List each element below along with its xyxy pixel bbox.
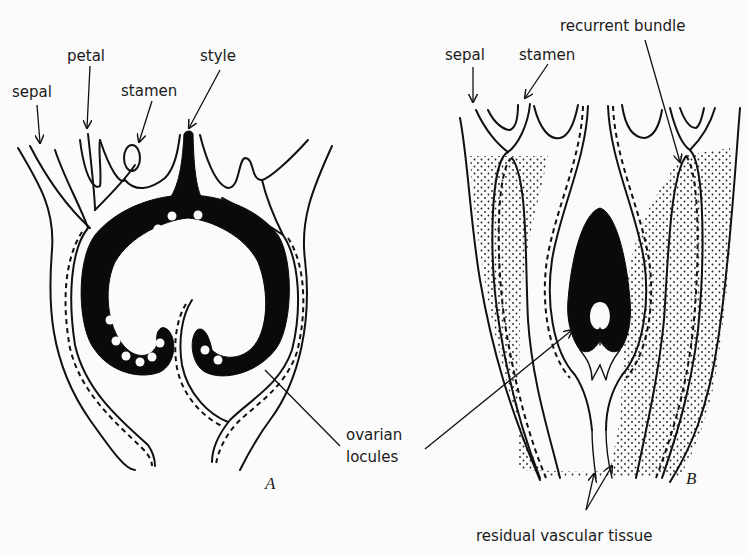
panel-a-anther (124, 145, 140, 171)
panel-b-sepal-right (670, 108, 715, 150)
residual-arrow-left (586, 474, 594, 510)
panel-b-stamen-left (488, 105, 518, 130)
panel-b-stamen-right-mid (622, 105, 662, 138)
sepal-arrow-a (37, 105, 40, 143)
panel-b (460, 40, 740, 510)
label-sepal-b: sepal (445, 46, 485, 64)
stamen-arrow-b (525, 64, 548, 98)
style-arrow-a (189, 70, 220, 128)
recurrent-bundle-arrow (645, 40, 680, 162)
label-stamen-a: stamen (121, 82, 177, 100)
panel-b-locule-cavity (590, 302, 610, 329)
label-sepal-a: sepal (12, 83, 52, 101)
label-residual-vascular-tissue: residual vascular tissue (476, 527, 653, 545)
label-recurrent-bundle: recurrent bundle (560, 17, 685, 35)
stamen-arrow-a (139, 101, 152, 142)
panel-a-stamen-mid (125, 135, 180, 188)
label-petal-a: petal (67, 47, 105, 65)
panel-letter-b: B (686, 469, 697, 488)
panel-b-locule (568, 208, 631, 352)
label-ovarian: ovarian (346, 426, 402, 444)
label-locules: locules (346, 448, 398, 466)
panel-a-stamen-right (200, 135, 308, 188)
ovarian-pointer-a (265, 370, 340, 446)
label-stamen-b: stamen (519, 46, 575, 64)
panel-b-stamen-mid (534, 105, 578, 138)
panel-b-stamen-right (680, 108, 704, 128)
label-style-a: style (200, 47, 236, 65)
panel-letter-a: A (264, 474, 276, 493)
panel-a (18, 66, 332, 470)
petal-arrow-a (87, 66, 90, 128)
flower-section-diagram: sepal petal stamen style sepal stamen re… (0, 0, 749, 554)
